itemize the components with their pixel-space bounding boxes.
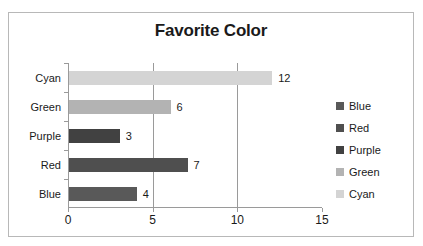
legend-label-purple: Purple: [349, 144, 381, 156]
legend-item-cyan[interactable]: Cyan: [336, 183, 408, 205]
legend-label-red: Red: [349, 122, 369, 134]
legend-label-blue: Blue: [349, 100, 371, 112]
bar-green[interactable]: [69, 100, 171, 114]
category-tick-4: [64, 63, 68, 64]
legend-swatch-cyan: [336, 190, 344, 198]
chart-frame: Favorite Color 473612 BlueRedPurpleGreen…: [8, 12, 414, 237]
category-label-green: Green: [30, 101, 61, 113]
legend-swatch-blue: [336, 102, 344, 110]
legend-item-blue[interactable]: Blue: [336, 95, 408, 117]
category-tick-1: [64, 150, 68, 151]
category-label-cyan: Cyan: [35, 72, 61, 84]
category-tick-2: [64, 121, 68, 122]
legend-item-red[interactable]: Red: [336, 117, 408, 139]
bar-value-label-red: 7: [194, 159, 200, 171]
value-tick-0: [68, 208, 69, 212]
value-tick-5: [153, 208, 154, 212]
value-tick-label-0: 0: [65, 213, 72, 227]
legend-item-purple[interactable]: Purple: [336, 139, 408, 161]
legend-swatch-green: [336, 168, 344, 176]
value-tick-10: [237, 208, 238, 212]
bar-cyan[interactable]: [69, 71, 272, 85]
bar-group-red: 7: [69, 158, 323, 172]
value-tick-15: [322, 208, 323, 212]
chart-legend: BlueRedPurpleGreenCyan: [336, 95, 408, 205]
value-tick-label-5: 5: [149, 213, 156, 227]
bar-value-label-purple: 3: [126, 130, 132, 142]
bar-group-green: 6: [69, 100, 323, 114]
legend-label-cyan: Cyan: [349, 188, 375, 200]
legend-swatch-red: [336, 124, 344, 132]
plot-area: 473612 BlueRedPurpleGreenCyan 051015: [68, 63, 322, 208]
chart-title: Favorite Color: [9, 21, 413, 41]
value-axis-line: [68, 207, 322, 208]
bar-purple[interactable]: [69, 129, 120, 143]
bar-red[interactable]: [69, 158, 188, 172]
value-tick-label-10: 10: [231, 213, 244, 227]
bar-value-label-cyan: 12: [278, 72, 290, 84]
bar-group-purple: 3: [69, 129, 323, 143]
category-tick-3: [64, 92, 68, 93]
bar-value-label-green: 6: [177, 101, 183, 113]
bar-blue[interactable]: [69, 187, 137, 201]
category-tick-0: [64, 179, 68, 180]
legend-item-green[interactable]: Green: [336, 161, 408, 183]
category-label-purple: Purple: [29, 130, 61, 142]
legend-swatch-purple: [336, 146, 344, 154]
category-label-red: Red: [41, 159, 61, 171]
legend-label-green: Green: [349, 166, 380, 178]
value-tick-label-15: 15: [315, 213, 328, 227]
bar-value-label-blue: 4: [143, 188, 149, 200]
bar-group-cyan: 12: [69, 71, 323, 85]
category-label-blue: Blue: [39, 188, 61, 200]
bar-group-blue: 4: [69, 187, 323, 201]
